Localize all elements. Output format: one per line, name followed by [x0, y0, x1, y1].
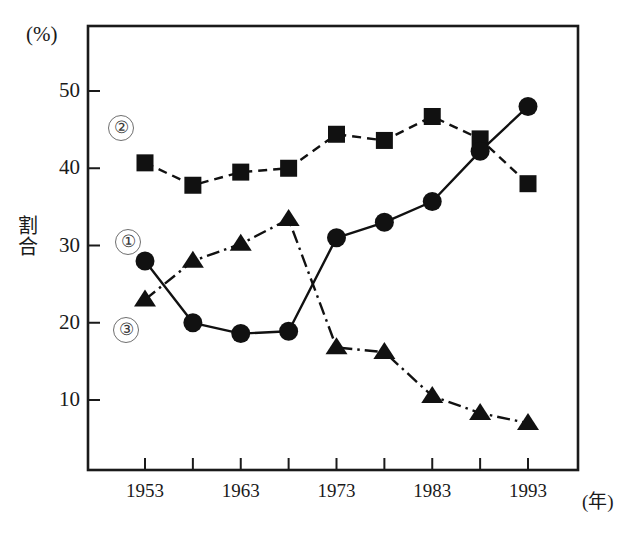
series-label-two: ② — [108, 115, 134, 141]
data-point-circle — [519, 97, 538, 116]
data-point-square — [137, 154, 154, 171]
chart-figure: (%) 割 合 (年) 1020304050 19531963197319831… — [0, 0, 635, 537]
series-label-three: ③ — [113, 317, 139, 343]
series-line — [145, 219, 528, 423]
data-point-circle — [136, 251, 155, 270]
y-tick-label: 50 — [36, 80, 80, 101]
y-tick-label: 10 — [36, 389, 80, 410]
data-point-square — [184, 177, 201, 194]
data-point-square — [232, 164, 249, 181]
x-tick-label: 1993 — [493, 481, 563, 500]
data-series-layer — [134, 97, 539, 430]
y-tick-label: 20 — [36, 312, 80, 333]
data-point-circle — [327, 228, 346, 247]
data-point-triangle — [230, 234, 252, 251]
data-point-square — [520, 175, 537, 192]
y-tick-label: 30 — [36, 235, 80, 256]
plot-border — [88, 26, 578, 470]
x-tick-label: 1953 — [110, 481, 180, 500]
data-point-circle — [471, 142, 490, 161]
data-point-circle — [183, 313, 202, 332]
y-tick-label: 40 — [36, 157, 80, 178]
data-point-triangle — [421, 386, 443, 403]
data-point-triangle — [278, 209, 300, 226]
x-axis-ticks — [145, 458, 528, 470]
data-point-square — [376, 132, 393, 149]
data-point-triangle — [517, 413, 539, 430]
y-axis-unit-label: (%) — [26, 22, 57, 47]
data-point-circle — [279, 322, 298, 341]
data-point-square — [280, 160, 297, 177]
x-tick-label: 1963 — [206, 481, 276, 500]
data-point-circle — [231, 324, 250, 343]
x-axis-unit-label: (年) — [582, 486, 614, 513]
data-point-square — [328, 126, 345, 143]
data-point-triangle — [326, 337, 348, 354]
series-label-one: ① — [115, 229, 141, 255]
x-tick-label: 1983 — [397, 481, 467, 500]
x-tick-label: 1973 — [302, 481, 372, 500]
chart-canvas — [0, 0, 635, 537]
data-point-circle — [423, 192, 442, 211]
data-point-square — [424, 108, 441, 125]
y-axis-ticks — [88, 91, 100, 400]
data-point-circle — [375, 213, 394, 232]
